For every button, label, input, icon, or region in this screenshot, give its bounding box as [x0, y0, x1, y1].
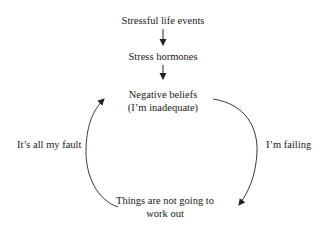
arrow-outcome-to-beliefs: [86, 99, 118, 207]
node-stress-hormones: Stress hormones: [103, 50, 223, 63]
diagram-canvas: Stressful life events Stress hormones Ne…: [0, 0, 322, 231]
arrow-beliefs-to-outcome: [213, 99, 257, 205]
node-stress-hormones-label: Stress hormones: [103, 50, 223, 63]
node-things-not-going-to-work-out: Things are not going to work out: [103, 194, 227, 220]
node-negative-beliefs-line1: Negative beliefs: [103, 88, 223, 101]
node-things-not-going-to-work-out-line2: work out: [103, 207, 227, 220]
edge-label-its-all-my-fault: It’s all my fault: [17, 138, 81, 151]
node-stressful-life-events: Stressful life events: [103, 14, 223, 27]
node-negative-beliefs-line2: (I’m inadequate): [103, 101, 223, 114]
node-negative-beliefs: Negative beliefs (I’m inadequate): [103, 88, 223, 114]
edge-label-im-failing: I’m failing: [266, 138, 311, 151]
node-stressful-life-events-label: Stressful life events: [103, 14, 223, 27]
node-things-not-going-to-work-out-line1: Things are not going to: [103, 194, 227, 207]
